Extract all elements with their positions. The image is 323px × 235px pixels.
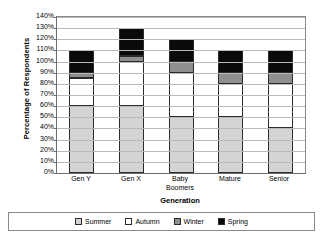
y-axis-tick-label: 30% [22, 135, 54, 143]
y-axis-tick-label: 50% [22, 112, 54, 120]
y-axis-tick-labels: 140%130%120%110%100%90%80%70%60%50%40%30… [22, 12, 54, 172]
gridline [57, 39, 305, 40]
y-axis-tick-label: 110% [22, 45, 54, 53]
bar-segment-summer [169, 117, 194, 173]
y-axis-tickmark [54, 84, 57, 85]
y-axis-tick-label: 0% [22, 168, 54, 176]
y-axis-tick-label: 10% [22, 157, 54, 165]
y-axis-tickmark [54, 28, 57, 29]
legend-label: Spring [228, 218, 248, 226]
y-axis-tick-label: 120% [22, 34, 54, 42]
y-axis-tickmark [54, 151, 57, 152]
gridline [57, 28, 305, 29]
y-axis-tick-label: 20% [22, 146, 54, 154]
gridline [57, 17, 305, 18]
bar-segment-summer [218, 117, 243, 173]
y-axis-tickmark [54, 95, 57, 96]
legend-item-autumn: Autumn [125, 218, 159, 226]
gridline [57, 62, 305, 63]
legend-label: Summer [85, 218, 111, 226]
legend-label: Autumn [135, 218, 159, 226]
gridline [57, 140, 305, 141]
legend-swatch-winter-icon [174, 218, 181, 225]
bar-segment-winter [119, 56, 144, 62]
bar-segment-autumn [69, 78, 94, 106]
x-axis-tick-label: Mature [205, 174, 255, 183]
bar-segment-winter [268, 73, 293, 84]
y-axis-tick-label: 130% [22, 23, 54, 31]
y-axis-tickmark [54, 62, 57, 63]
x-axis-title: Generation [56, 196, 304, 205]
gridline [57, 106, 305, 107]
y-axis-tick-label: 100% [22, 57, 54, 65]
bar-segment-autumn [218, 84, 243, 117]
x-axis-tick-label: Baby Boomers [155, 174, 205, 192]
legend-item-winter: Winter [174, 218, 204, 226]
gridline [57, 151, 305, 152]
gridline [57, 162, 305, 163]
gridline [57, 84, 305, 85]
legend-item-spring: Spring [218, 218, 248, 226]
x-axis-tick-label: Gen Y [56, 174, 106, 183]
legend-label: Winter [184, 218, 204, 226]
chart-legend: SummerAutumnWinterSpring [8, 212, 315, 231]
x-axis-tick-label: Senior [254, 174, 304, 183]
y-axis-tick-label: 70% [22, 90, 54, 98]
legend-swatch-summer-icon [75, 218, 82, 225]
plot-area [56, 16, 306, 174]
gridline [57, 73, 305, 74]
y-axis-tick-label: 140% [22, 12, 54, 20]
legend-item-summer: Summer [75, 218, 111, 226]
gridline [57, 128, 305, 129]
y-axis-tick-label: 40% [22, 123, 54, 131]
gridline [57, 50, 305, 51]
y-axis-tick-label: 90% [22, 68, 54, 76]
stacked-bar-chart: Percentage of Respondents 140%130%120%11… [0, 0, 323, 235]
gridline [57, 95, 305, 96]
bar-segment-winter [218, 73, 243, 84]
y-axis-tickmark [54, 17, 57, 18]
x-axis-tick-label: Gen X [106, 174, 156, 183]
y-axis-tickmark [54, 50, 57, 51]
y-axis-tickmark [54, 140, 57, 141]
bar-segment-spring [119, 28, 144, 56]
y-axis-tickmark [54, 106, 57, 107]
bar-segment-winter [169, 62, 194, 73]
gridline [57, 117, 305, 118]
y-axis-tickmark [54, 39, 57, 40]
legend-swatch-autumn-icon [125, 218, 132, 225]
y-axis-tick-label: 80% [22, 79, 54, 87]
y-axis-tickmark [54, 73, 57, 74]
y-axis-tick-label: 60% [22, 101, 54, 109]
y-axis-tickmark [54, 117, 57, 118]
y-axis-tickmark [54, 162, 57, 163]
y-axis-tickmark [54, 128, 57, 129]
legend-swatch-spring-icon [218, 218, 225, 225]
